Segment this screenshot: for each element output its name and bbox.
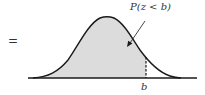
arrow-line [130, 21, 145, 43]
equals-sign: = [8, 34, 18, 48]
probability-label: P(z < b) [130, 1, 171, 12]
boundary-label-b: b [141, 81, 147, 92]
normal-curve-svg [0, 0, 205, 95]
shaded-area [33, 17, 146, 78]
normal-distribution-diagram: = P(z < b) b [0, 0, 205, 95]
